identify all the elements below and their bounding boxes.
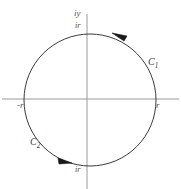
contour-c2-name: C — [30, 136, 37, 147]
bottom-intercept-label: ir — [75, 165, 81, 174]
contour-label-c1: C1 — [148, 57, 158, 70]
left-intercept-label: -r — [17, 101, 24, 110]
arrowhead-c2 — [58, 158, 72, 164]
right-intercept-label: r — [156, 101, 160, 110]
y-axis-label: iy — [74, 9, 81, 18]
contour-c2-subscript: 2 — [37, 142, 41, 150]
contour-c1-name: C — [148, 56, 155, 67]
complex-plane-diagram — [0, 0, 181, 189]
figure-canvas: iy ir ir r -r C1 C2 — [0, 0, 181, 189]
contour-c1-subscript: 1 — [155, 62, 159, 70]
contour-label-c2: C2 — [30, 137, 40, 150]
top-intercept-label: ir — [75, 21, 81, 30]
arrowhead-c1 — [112, 33, 127, 41]
circle-contour — [24, 34, 156, 166]
